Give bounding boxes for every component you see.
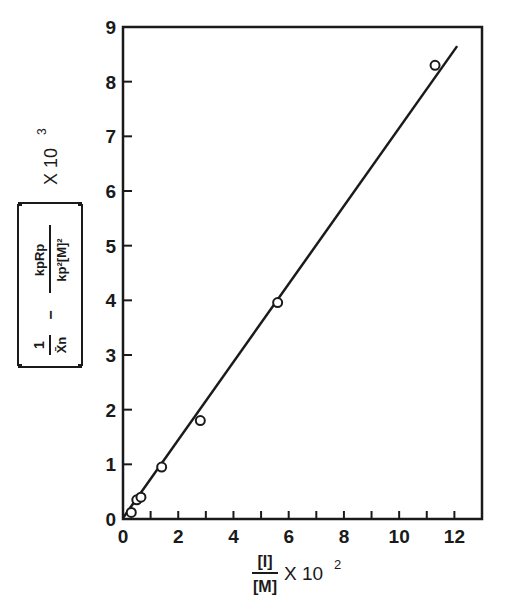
y-label-bracket-bottom [78, 205, 82, 365]
y-tick-label: 4 [105, 290, 116, 311]
y-tick-label: 6 [105, 181, 116, 202]
y-label-term2-den: kp²[M]² [54, 238, 69, 282]
data-point [196, 416, 205, 425]
x-label-exponent: 2 [334, 557, 341, 572]
x-tick-label: 12 [444, 526, 465, 547]
y-label-exponent: 3 [35, 128, 49, 135]
chart: 024681012 0123456789 [I] [M] X 10 2 1 X̄… [0, 0, 507, 609]
y-label-term2-num: kpRp [32, 244, 47, 277]
x-label-multiplier: X 10 [284, 563, 323, 584]
x-axis-label: [I] [M] X 10 2 [252, 553, 341, 595]
x-axis: 024681012 [118, 511, 465, 547]
y-tick-label: 3 [105, 345, 116, 366]
y-label-minus: − [42, 310, 59, 319]
x-tick-label: 10 [389, 526, 410, 547]
fit-line [123, 46, 457, 518]
y-tick-label: 9 [105, 17, 116, 38]
y-tick-label: 8 [105, 72, 116, 93]
x-tick-label: 0 [118, 526, 129, 547]
x-label-numerator: [I] [257, 553, 272, 570]
x-label-denominator: [M] [253, 578, 277, 595]
data-point [136, 493, 145, 502]
y-axis-label: 1 X̄n − kpRp kp²[M]² X 10 3 [18, 128, 82, 367]
x-tick-label: 2 [173, 526, 184, 547]
y-tick-label: 2 [105, 400, 116, 421]
data-point [157, 463, 166, 472]
regression-line [123, 46, 457, 518]
data-point [127, 508, 136, 517]
y-tick-label: 5 [105, 236, 116, 257]
data-point [431, 61, 440, 70]
y-label-term1-den: X̄n [54, 337, 69, 354]
y-axis: 0123456789 [105, 17, 132, 530]
x-tick-label: 6 [283, 526, 294, 547]
data-point [273, 298, 282, 307]
y-label-bracket-top [18, 205, 22, 365]
y-tick-label: 0 [105, 509, 116, 530]
data-points [127, 61, 440, 517]
y-label-term1-num: 1 [31, 341, 47, 349]
y-label-multiplier: X 10 [41, 148, 61, 185]
y-tick-label: 7 [105, 126, 116, 147]
x-tick-label: 4 [228, 526, 239, 547]
plot-border [123, 27, 482, 519]
plot-frame [123, 27, 482, 519]
x-tick-label: 8 [339, 526, 350, 547]
y-tick-label: 1 [105, 454, 116, 475]
